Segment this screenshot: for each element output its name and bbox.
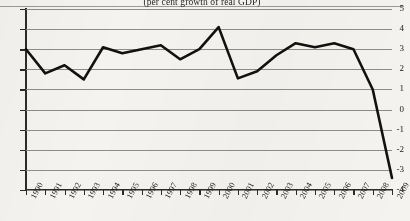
gridline--2 — [26, 150, 392, 151]
x-tick-mark-2004 — [296, 190, 297, 195]
x-tick-mark-1995 — [122, 190, 123, 195]
x-tick-mark-1999 — [199, 190, 200, 195]
x-tick-mark-2000 — [219, 190, 220, 195]
x-tick-mark-2006 — [334, 190, 335, 195]
y-tick-label: 1 — [386, 84, 404, 93]
x-tick-mark-2008 — [373, 190, 374, 195]
gridline--1 — [26, 130, 392, 131]
x-tick-mark-1990 — [26, 190, 27, 195]
gridline--3 — [26, 170, 392, 171]
plot-area — [26, 9, 392, 190]
y-tick-label: 0 — [386, 105, 404, 114]
gridline-3 — [26, 49, 392, 50]
x-tick-mark-1996 — [142, 190, 143, 195]
x-tick-mark-1992 — [65, 190, 66, 195]
x-tick-mark-2009 — [392, 190, 393, 195]
y-tick-mark--2 — [20, 150, 25, 151]
x-tick-mark-2001 — [238, 190, 239, 195]
x-tick-mark-1997 — [161, 190, 162, 195]
y-tick-mark-0 — [20, 110, 25, 111]
gridline-1 — [26, 89, 392, 90]
y-tick-label: 3 — [386, 44, 404, 53]
x-tick-mark-1994 — [103, 190, 104, 195]
x-tick-mark-1998 — [180, 190, 181, 195]
y-tick-mark-5 — [20, 9, 25, 10]
y-tick-label: 5 — [386, 4, 404, 13]
y-tick-label: -2 — [386, 145, 404, 154]
gridline-4 — [26, 29, 392, 30]
y-tick-label: 4 — [386, 24, 404, 33]
y-tick-mark-1 — [20, 89, 25, 90]
chart-title: (per cent growth of real GDP) — [0, 0, 404, 7]
y-tick-mark-3 — [20, 49, 25, 50]
gridline-5 — [26, 9, 392, 10]
gridline-0 — [26, 110, 392, 111]
y-tick-mark-4 — [20, 29, 25, 30]
x-tick-mark-2005 — [315, 190, 316, 195]
x-tick-mark-1993 — [84, 190, 85, 195]
x-tick-mark-1991 — [45, 190, 46, 195]
x-tick-mark-2007 — [353, 190, 354, 195]
y-tick-label: 2 — [386, 64, 404, 73]
y-tick-mark--1 — [20, 130, 25, 131]
x-tick-mark-2003 — [276, 190, 277, 195]
y-tick-mark-2 — [20, 69, 25, 70]
x-tick-mark-2002 — [257, 190, 258, 195]
y-tick-mark--4 — [20, 190, 25, 191]
y-tick-label: -3 — [386, 165, 404, 174]
y-tick-label: -1 — [386, 125, 404, 134]
y-tick-mark--3 — [20, 170, 25, 171]
gridline-2 — [26, 69, 392, 70]
